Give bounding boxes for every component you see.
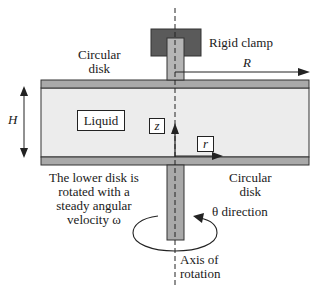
axis-label-line2: rotation <box>180 267 220 281</box>
axis-label-line1: Axis of <box>180 253 220 267</box>
r-axis-label: r <box>197 136 214 152</box>
caption-line1: The lower disk is <box>49 171 139 185</box>
radius-arrowhead-icon <box>298 68 310 76</box>
upper-disk-label-line1: Circular <box>78 48 121 62</box>
radius-label: R <box>243 56 251 70</box>
liquid-label: Liquid <box>77 110 125 131</box>
lower-disk-label: Circular disk <box>229 171 272 199</box>
height-arrowhead-up-icon <box>20 86 28 96</box>
caption-line2: rotated with a <box>49 185 139 199</box>
height-label: H <box>8 113 17 127</box>
caption: The lower disk is rotated with a steady … <box>49 171 139 227</box>
caption-line3: steady angular <box>49 199 139 213</box>
theta-arrowhead-icon <box>193 213 204 223</box>
upper-disk-label: Circular disk <box>78 48 121 76</box>
caption-line4: velocity ω <box>49 213 139 227</box>
z-axis-label: z <box>149 118 165 134</box>
axis-of-rotation-label: Axis of rotation <box>180 253 220 281</box>
lower-disk-label-line2: disk <box>229 185 272 199</box>
clamp-label: Rigid clamp <box>209 36 273 50</box>
height-arrowhead-down-icon <box>20 148 28 158</box>
theta-direction-label: θ direction <box>212 205 268 219</box>
upper-disk-label-line2: disk <box>78 62 121 76</box>
lower-disk-label-line1: Circular <box>229 171 272 185</box>
